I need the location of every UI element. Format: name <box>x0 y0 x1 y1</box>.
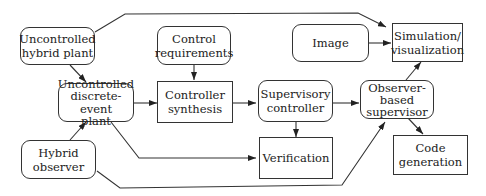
node-verification: Verification <box>259 137 333 179</box>
edge-observer-simulation <box>406 62 421 80</box>
node-controller-synthesis: Controller synthesis <box>157 81 233 123</box>
node-supervisory-controller: Supervisory controller <box>258 80 333 122</box>
node-image: Image <box>292 24 369 62</box>
node-code-generation: Code generation <box>393 135 468 175</box>
edge-hybridobserver-observer <box>97 122 385 188</box>
node-observer-based-supervisor: Observer- based supervisor <box>360 80 434 119</box>
node-hybrid-observer: Hybrid observer <box>21 140 96 179</box>
node-uncontrolled-hybrid-plant: Uncontrolled hybrid plant <box>20 27 95 65</box>
node-simulation-visualization: Simulation/ visualization <box>392 23 463 62</box>
node-control-requirements: Control requirements <box>157 26 231 65</box>
edge-observer-codegen <box>408 118 423 134</box>
node-uncontrolled-des-plant: Uncontrolled discrete-event plant <box>58 83 134 122</box>
